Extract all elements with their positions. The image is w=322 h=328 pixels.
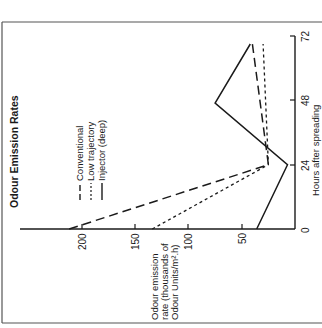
rate-tick-label-100: 100 [183,233,194,250]
rate-tick-label-50: 50 [237,232,248,244]
legend: Conventional Low trajectory Injector (de… [74,120,107,200]
hours-tick-label-72: 72 [300,30,311,42]
rate-tick-label-150: 150 [130,233,141,250]
hours-tick-label-0: 0 [300,227,311,233]
hours-axis-ticks [290,36,295,165]
legend-label-injector: Injector (deep) [96,120,107,181]
rate-axis-ticks [82,224,242,229]
rate-axis-label-line3: Odour Units/m².h) [169,245,180,321]
legend-label-conventional: Conventional [74,126,85,181]
hours-tick-label-48: 48 [300,94,311,106]
legend-label-low-trajectory: Low trajectory [85,122,96,181]
series-injector-deep [215,44,287,229]
rate-tick-label-200: 200 [77,233,88,250]
chart-canvas: Odour Emission Rates Conventional Low tr… [0,0,322,328]
series-low-trajectory [152,44,268,229]
hours-axis-label: Hours after spreading [310,105,321,196]
chart-title: Odour Emission Rates [8,95,20,208]
